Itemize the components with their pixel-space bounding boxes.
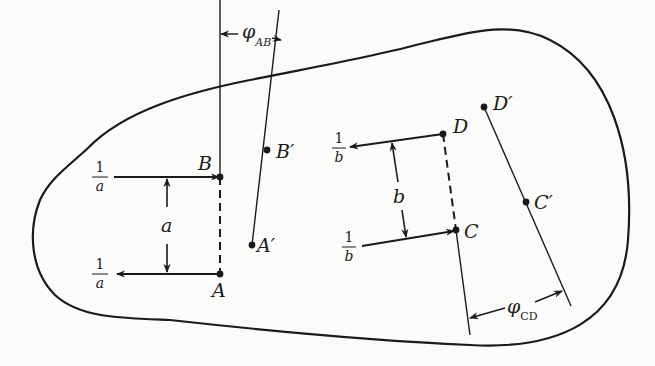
label-phi-cd: φCD bbox=[507, 295, 538, 323]
point-c bbox=[453, 227, 460, 234]
label-a-prime: A′ bbox=[255, 234, 276, 256]
label-b-prime: B′ bbox=[275, 140, 295, 162]
svg-text:b: b bbox=[335, 149, 344, 165]
label-arm-a: a bbox=[161, 214, 172, 236]
label-c: C bbox=[464, 220, 479, 242]
force-label-top-ab: 1 a bbox=[92, 159, 108, 194]
label-a: A bbox=[210, 279, 226, 301]
label-c-prime: C′ bbox=[534, 191, 554, 213]
angle-cd-arrow-right bbox=[535, 291, 562, 302]
point-c-prime bbox=[523, 199, 530, 206]
label-phi-ab: φAB bbox=[242, 20, 271, 49]
label-d: D bbox=[452, 115, 468, 137]
svg-text:a: a bbox=[96, 275, 104, 291]
line-cd-rotated bbox=[484, 107, 571, 306]
couple-cd: D C b 1 b 1 b D′ C′ φCD bbox=[332, 92, 571, 335]
force-arrow-c bbox=[362, 231, 454, 246]
body-outline bbox=[33, 29, 629, 345]
angle-cd-arrow-left bbox=[470, 308, 505, 318]
couple-ab: B A a 1 a 1 a B′ A′ φAB bbox=[92, 0, 295, 301]
point-a bbox=[217, 271, 224, 278]
line-cd-original bbox=[456, 230, 470, 335]
svg-text:1: 1 bbox=[345, 229, 354, 245]
label-b: B bbox=[197, 152, 212, 174]
svg-text:a: a bbox=[96, 178, 104, 194]
point-a-prime bbox=[249, 242, 256, 249]
label-d-prime: D′ bbox=[492, 92, 513, 114]
line-cd-dashed bbox=[443, 134, 456, 230]
angle-ab-arrow-right bbox=[272, 38, 281, 40]
diagram-canvas: B A a 1 a 1 a B′ A′ φAB bbox=[0, 0, 655, 366]
arm-b-top bbox=[392, 143, 398, 182]
point-d bbox=[440, 131, 447, 138]
force-label-bottom-cd: 1 b bbox=[342, 229, 356, 264]
svg-text:1: 1 bbox=[335, 130, 344, 146]
svg-text:1: 1 bbox=[96, 159, 105, 175]
label-arm-b: b bbox=[393, 185, 405, 207]
point-d-prime bbox=[481, 104, 488, 111]
arm-b-bottom bbox=[402, 210, 406, 237]
svg-text:1: 1 bbox=[96, 256, 105, 272]
force-label-bottom-ab: 1 a bbox=[92, 256, 108, 291]
force-arrow-d bbox=[350, 134, 443, 147]
point-b-prime bbox=[264, 147, 271, 154]
point-b bbox=[217, 174, 224, 181]
force-label-top-cd: 1 b bbox=[332, 130, 346, 165]
svg-text:b: b bbox=[345, 248, 354, 264]
